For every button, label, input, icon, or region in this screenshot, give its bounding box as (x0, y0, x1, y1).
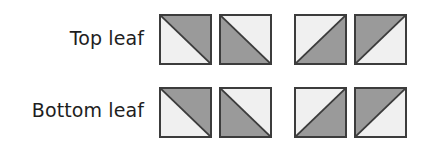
square-top-4 (354, 14, 407, 65)
row-label-bottom-leaf: Bottom leaf (32, 99, 144, 121)
square-bottom-4 (354, 87, 407, 138)
square-top-1 (159, 14, 212, 65)
row-label-top-leaf: Top leaf (70, 27, 144, 49)
square-top-2 (219, 14, 272, 65)
square-top-3 (294, 14, 347, 65)
square-bottom-1 (159, 87, 212, 138)
square-bottom-3 (294, 87, 347, 138)
square-bottom-2 (219, 87, 272, 138)
